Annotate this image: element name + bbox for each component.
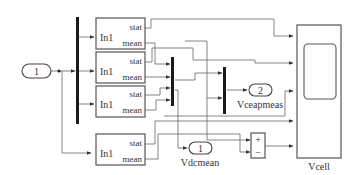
mean-label: mean	[123, 38, 143, 48]
scope-screen-icon	[304, 44, 336, 99]
mean-label: mean	[123, 154, 143, 164]
sum-block[interactable]: + −	[251, 133, 265, 158]
stat-label: stat	[130, 56, 143, 66]
scope-vcell[interactable]: Vcell	[297, 25, 341, 172]
stat-label: stat	[130, 89, 143, 99]
mean-label: mean	[123, 105, 143, 115]
in1-label: In1	[100, 148, 113, 159]
in1-label: In1	[100, 32, 113, 43]
mean-label: mean	[123, 72, 143, 82]
minus-sign: −	[255, 147, 261, 158]
in1-label: In1	[100, 66, 113, 77]
plus-sign: +	[255, 134, 261, 145]
outport-number: 2	[258, 85, 263, 96]
stat-block-1[interactable]: In1 stat mean	[96, 18, 145, 49]
outport-name: Vdcmean	[181, 157, 219, 168]
branch-point	[57, 69, 60, 72]
outport-number: 1	[198, 143, 203, 154]
in1-label: In1	[100, 99, 113, 110]
stat-block-4[interactable]: In1 stat mean	[96, 134, 145, 165]
mux-bus-b[interactable]	[223, 67, 226, 114]
mux-bus-a[interactable]	[171, 57, 174, 106]
stat-label: stat	[130, 138, 143, 148]
inport-1[interactable]: 1	[22, 64, 51, 78]
outport-vdcmean[interactable]: 1 Vdcmean	[181, 142, 219, 168]
demux-bus[interactable]	[76, 17, 79, 124]
stat-label: stat	[130, 22, 143, 32]
inport-number: 1	[34, 66, 39, 77]
scope-name: Vcell	[308, 161, 330, 172]
outport-vceapmeas[interactable]: 2 Vceapmeas	[237, 84, 283, 110]
stat-block-3[interactable]: In1 stat mean	[96, 86, 145, 117]
simulink-canvas: 1 In1 stat mean In1 stat mean In1 stat m…	[0, 0, 361, 175]
stat-block-2[interactable]: In1 stat mean	[96, 52, 145, 83]
outport-name: Vceapmeas	[237, 99, 283, 110]
